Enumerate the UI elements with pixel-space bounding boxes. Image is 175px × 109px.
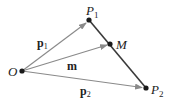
- label-vector-p1: p1: [37, 36, 48, 51]
- point-o: [19, 68, 24, 73]
- label-m: M: [115, 37, 128, 52]
- vector-m: [22, 45, 107, 71]
- vector-diagram: O P1 M P2 p1 m p2: [0, 0, 175, 109]
- label-vector-p2: p2: [80, 84, 91, 99]
- label-p1: P1: [85, 3, 98, 20]
- point-m: [107, 41, 112, 46]
- point-p2: [143, 85, 148, 90]
- label-o: O: [8, 64, 18, 79]
- label-vector-m: m: [67, 59, 77, 73]
- point-p1: [86, 17, 91, 22]
- segment-p1-p2: [89, 20, 146, 88]
- label-p2: P2: [150, 82, 163, 99]
